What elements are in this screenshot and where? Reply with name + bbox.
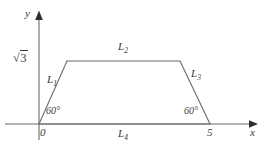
- y-axis-label: y: [25, 8, 30, 19]
- x-tick-label-5: 5: [207, 127, 213, 138]
- angle-label-left: 60°: [46, 106, 60, 116]
- angle-label-right: 60°: [184, 106, 198, 116]
- y-tick-label-sqrt3: √3: [13, 52, 28, 64]
- radicand-3: 3: [20, 50, 28, 65]
- x-axis-label: x: [250, 127, 255, 138]
- segment-label-L4: L4: [118, 128, 128, 142]
- segment-label-L2: L2: [118, 41, 128, 55]
- segment-label-L3: L3: [191, 68, 201, 82]
- figure-canvas: y x √3 0 5 L1 L2 L3 L4 60° 60°: [0, 0, 268, 153]
- segment-label-L1: L1: [47, 74, 57, 88]
- radical-sign: √: [13, 51, 20, 65]
- y-axis-arrowhead: [35, 11, 43, 21]
- x-tick-label-0: 0: [40, 127, 46, 138]
